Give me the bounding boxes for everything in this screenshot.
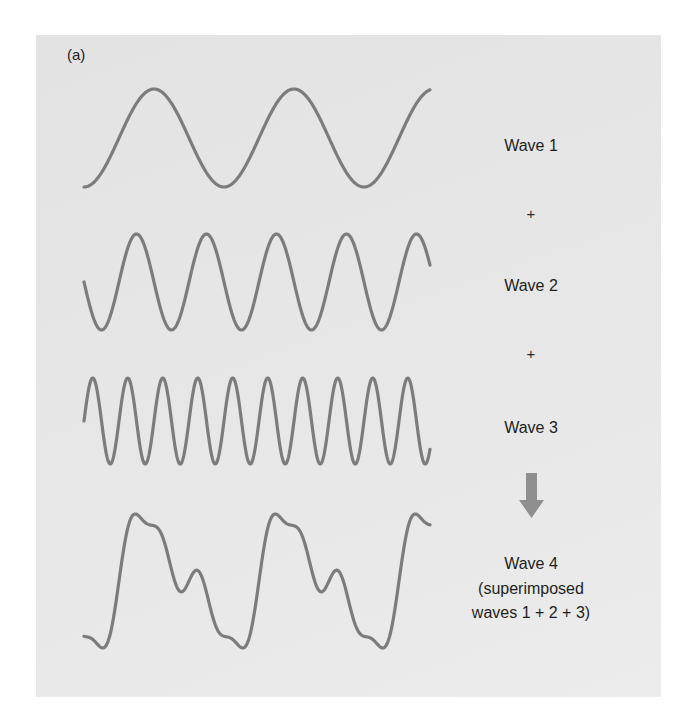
plus-operator-1: + — [451, 205, 611, 222]
wave-2-label: Wave 2 — [451, 274, 611, 298]
wave-1-label: Wave 1 — [451, 134, 611, 158]
wave-3-label: Wave 3 — [451, 416, 611, 440]
down-arrow-icon — [518, 473, 546, 519]
wave-4-sublabel-line1: (superimposed — [451, 577, 611, 601]
wave-4-curve — [84, 514, 430, 648]
wave-1-curve — [84, 89, 430, 187]
wave-4-label: Wave 4 — [451, 552, 611, 576]
wave-4-sublabel-line2: waves 1 + 2 + 3) — [451, 601, 611, 625]
wave-3-curve — [84, 378, 430, 464]
plus-operator-2: + — [451, 345, 611, 362]
wave-2-curve — [84, 234, 430, 330]
